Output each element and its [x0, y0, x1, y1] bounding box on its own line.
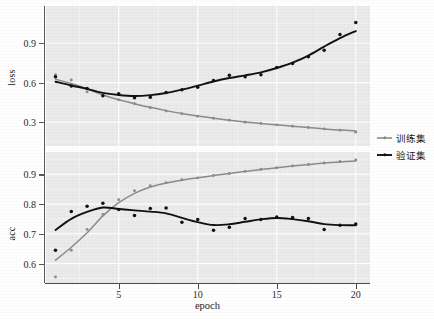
plot-area-acc — [46, 152, 370, 283]
y-axis-line — [44, 6, 45, 283]
y-tick-mark — [39, 204, 44, 205]
x-axis-line — [45, 283, 370, 284]
legend-label-train: 训练集 — [396, 131, 425, 145]
y-tick-mark — [39, 83, 44, 84]
chart-legend: 训练集 验证集 — [376, 129, 434, 163]
y-tick-label: 0.9 — [2, 169, 36, 180]
y-tick-label: 0.3 — [2, 117, 36, 128]
legend-line-icon-validation — [376, 149, 393, 161]
legend-item-validation[interactable]: 验证集 — [376, 146, 434, 163]
y-tick-mark — [39, 234, 44, 235]
x-axis-title: epoch — [45, 300, 370, 311]
x-tick-label: 20 — [341, 289, 371, 300]
y-tick-label: 0.6 — [2, 77, 36, 88]
y-tick-label: 0.8 — [2, 199, 36, 210]
y-tick-label: 0.7 — [2, 228, 36, 239]
legend-item-train[interactable]: 训练集 — [376, 129, 434, 146]
legend-label-validation: 验证集 — [396, 148, 425, 162]
y-tick-label: 0.6 — [2, 258, 36, 269]
chart-figure: loss acc 0.30.60.90.60.70.80.95101520 ep… — [0, 0, 434, 319]
panel-loss — [46, 6, 370, 146]
x-tick-label: 15 — [262, 289, 292, 300]
y-tick-mark — [39, 264, 44, 265]
y-tick-mark — [39, 122, 44, 123]
y-tick-mark — [39, 174, 44, 175]
y-tick-mark — [39, 43, 44, 44]
legend-line-icon-train — [376, 132, 393, 144]
plot-area-loss — [46, 6, 370, 146]
x-tick-label: 5 — [104, 289, 134, 300]
x-tick-label: 10 — [183, 289, 213, 300]
panel-acc — [46, 152, 370, 283]
y-tick-label: 0.9 — [2, 37, 36, 48]
